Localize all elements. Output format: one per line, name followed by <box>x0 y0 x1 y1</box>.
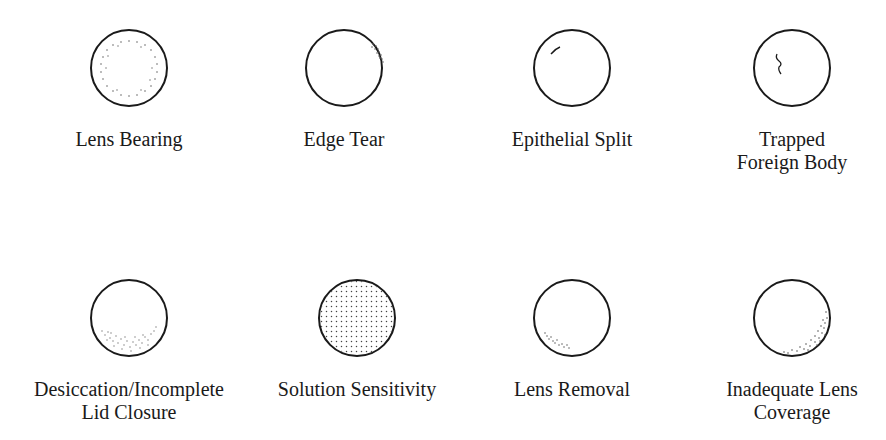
trapped-foreign-body-icon <box>754 30 830 106</box>
label-line: Solution Sensitivity <box>237 378 477 401</box>
ring-dots-icon <box>100 40 158 97</box>
label-trapped-foreign-body: Trapped Foreign Body <box>672 128 886 174</box>
epithelial-split-icon <box>534 30 610 106</box>
label-lens-bearing: Lens Bearing <box>9 128 249 151</box>
label-solution-sensitivity: Solution Sensitivity <box>237 378 477 401</box>
label-line: Coverage <box>672 401 886 424</box>
label-line: Trapped <box>672 128 886 151</box>
split-line-icon <box>551 47 560 54</box>
edge-tear-icon <box>306 30 384 106</box>
label-line: Lens Removal <box>452 378 692 401</box>
label-line: Edge Tear <box>224 128 464 151</box>
label-lens-removal: Lens Removal <box>452 378 692 401</box>
label-line: Foreign Body <box>672 151 886 174</box>
solution-sensitivity-icon <box>318 279 396 357</box>
lens-bearing-icon <box>91 30 167 106</box>
lower-band-dots-icon <box>101 326 156 351</box>
label-line: Inadequate Lens <box>672 378 886 401</box>
inadequate-lens-coverage-icon <box>754 280 830 356</box>
label-desiccation-incomplete-lid-closure: Desiccation/Incomplete Lid Closure <box>9 378 249 424</box>
desiccation-icon <box>91 280 167 356</box>
label-line: Lid Closure <box>9 401 249 424</box>
squiggle-track-icon <box>776 54 781 74</box>
lens-removal-icon <box>534 280 610 356</box>
label-line: Lens Bearing <box>9 128 249 151</box>
label-edge-tear: Edge Tear <box>224 128 464 151</box>
label-inadequate-lens-coverage: Inadequate Lens Coverage <box>672 378 886 424</box>
label-line: Desiccation/Incomplete <box>9 378 249 401</box>
label-line: Epithelial Split <box>452 128 692 151</box>
label-epithelial-split: Epithelial Split <box>452 128 692 151</box>
staining-diagram <box>0 0 886 440</box>
lower-right-crescent-dots-icon <box>783 311 828 354</box>
